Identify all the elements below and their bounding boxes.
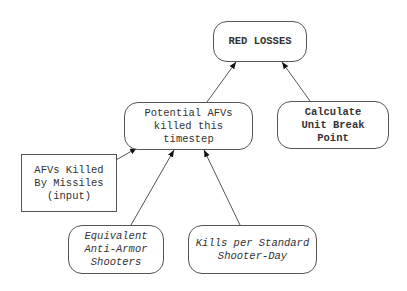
edge-missiles-to-potential — [116, 148, 137, 160]
node-afvs-missiles-label: AFVs Killed By Missiles (input) — [34, 164, 103, 203]
edge-kills-to-potential — [204, 150, 240, 225]
node-potential-afvs-label: Potential AFVs killed this timestep — [144, 107, 232, 146]
edge-potential-to-red — [207, 62, 236, 102]
node-break-point-label: Calculate Unit Break Point — [301, 106, 364, 145]
node-potential-afvs-killed: Potential AFVs killed this timestep — [124, 102, 253, 150]
node-red-losses: RED LOSSES — [213, 21, 307, 62]
node-kills-per-standard-shooter-day: Kills per Standard Shooter-Day — [188, 225, 317, 274]
node-calculate-unit-break-point: Calculate Unit Break Point — [277, 101, 389, 149]
edge-breakpoint-to-red — [282, 62, 310, 101]
node-red-losses-label: RED LOSSES — [228, 35, 291, 48]
node-kills-per-day-label: Kills per Standard Shooter-Day — [196, 237, 309, 263]
edge-shooters-to-potential — [131, 150, 174, 225]
node-equivalent-anti-armor-shooters: Equivalent Anti-Armor Shooters — [68, 225, 164, 274]
node-afvs-killed-by-missiles: AFVs Killed By Missiles (input) — [21, 154, 117, 212]
node-equiv-shooters-label: Equivalent Anti-Armor Shooters — [84, 230, 147, 269]
